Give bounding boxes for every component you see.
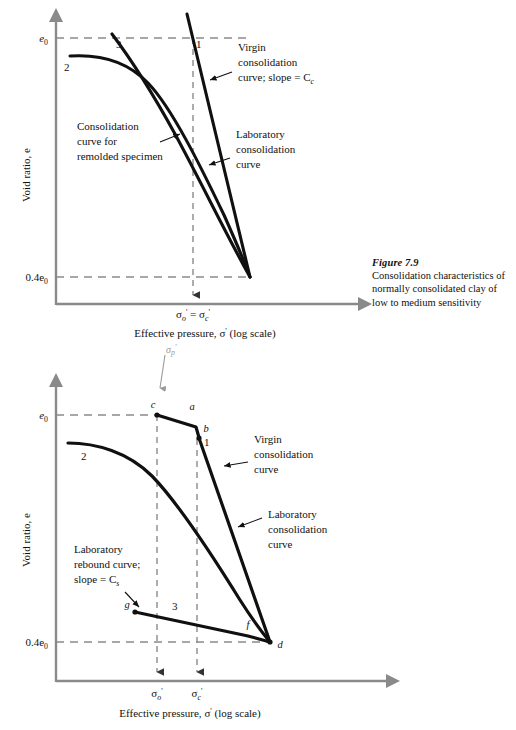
figure-page: e0 0.4e0 Void ratio, e σo' = σc' Effecti… bbox=[0, 0, 516, 730]
bottom-annotation-laboratory: Laboratory consolidation curve bbox=[238, 508, 328, 550]
svg-text:Consolidation: Consolidation bbox=[77, 120, 139, 132]
svg-text:Laboratory: Laboratory bbox=[268, 508, 317, 520]
figure-caption-title: Figure 7.9 bbox=[372, 256, 514, 269]
bottom-annotation-rebound: Laboratory rebound curve; slope = Cs bbox=[74, 543, 140, 607]
bottom-point-label-d: d bbox=[277, 639, 283, 650]
svg-text:remolded specimen: remolded specimen bbox=[77, 150, 163, 162]
bottom-annotation-virgin: Virgin consolidation curve bbox=[224, 433, 314, 475]
bottom-point-label-c: c bbox=[151, 399, 156, 410]
svg-text:rebound curve;: rebound curve; bbox=[74, 558, 140, 570]
bottom-point-label-b: b bbox=[203, 423, 208, 434]
bottom-y-axis-label: Void ratio, e bbox=[20, 513, 32, 567]
top-curve-label-1: 1 bbox=[196, 38, 202, 50]
bottom-y-tick-e0: e0 bbox=[39, 409, 48, 424]
svg-text:Laboratory: Laboratory bbox=[236, 128, 285, 140]
top-x-tick-label: σo' = σc' bbox=[176, 308, 210, 323]
marginal-arrow bbox=[160, 355, 165, 388]
svg-text:consolidation: consolidation bbox=[254, 448, 314, 460]
bottom-x-axis-label: Effective pressure, σ' (log scale) bbox=[119, 707, 261, 721]
svg-text:Virgin: Virgin bbox=[238, 41, 266, 53]
bottom-chart: e0 0.4e0 Void ratio, e σo' σc' Effective… bbox=[20, 385, 388, 720]
bottom-leader-virgin bbox=[224, 462, 248, 466]
svg-text:curve: curve bbox=[236, 158, 261, 170]
top-curve-label-3: 3 bbox=[116, 38, 122, 50]
bottom-x-tick-sigma-o: σo' bbox=[151, 687, 163, 702]
bottom-point-g bbox=[132, 609, 137, 614]
svg-text:Virgin: Virgin bbox=[254, 433, 282, 445]
top-leader-laboratory bbox=[209, 158, 230, 165]
consolidation-figure: e0 0.4e0 Void ratio, e σo' = σc' Effecti… bbox=[0, 0, 516, 730]
svg-text:curve for: curve for bbox=[77, 135, 117, 147]
bottom-curve-label-3: 3 bbox=[172, 600, 178, 612]
figure-caption-text: Consolidation characteristics of normall… bbox=[372, 269, 514, 309]
top-curve-label-2: 2 bbox=[64, 61, 70, 73]
marginal-sigma-p: σp' bbox=[166, 343, 177, 357]
bottom-leader-laboratory bbox=[238, 518, 262, 527]
bottom-curve-label-1: 1 bbox=[204, 436, 210, 448]
top-chart: e0 0.4e0 Void ratio, e σo' = σc' Effecti… bbox=[20, 14, 360, 340]
bottom-point-label-a: a bbox=[189, 401, 194, 412]
bottom-point-c bbox=[154, 412, 159, 417]
top-leader-virgin bbox=[210, 72, 232, 80]
svg-text:curve: curve bbox=[254, 463, 279, 475]
bottom-y-tick-04e0: 0.4e0 bbox=[25, 636, 48, 651]
svg-text:consolidation: consolidation bbox=[236, 143, 296, 155]
top-annotation-remolded: Consolidation curve for remolded specime… bbox=[77, 120, 180, 162]
svg-text:consolidation: consolidation bbox=[268, 523, 328, 535]
figure-caption: Figure 7.9 Consolidation characteristics… bbox=[372, 256, 514, 309]
svg-text:curve: curve bbox=[268, 538, 293, 550]
marginal-annotation: σp' bbox=[160, 343, 177, 388]
top-x-axis-label: Effective pressure, σ' (log scale) bbox=[134, 327, 276, 341]
svg-text:consolidation: consolidation bbox=[238, 56, 298, 68]
top-y-tick-e0: e0 bbox=[39, 32, 48, 47]
bottom-point-d bbox=[267, 639, 272, 644]
svg-text:slope = Cs: slope = Cs bbox=[74, 573, 119, 588]
bottom-point-label-g: g bbox=[124, 599, 129, 610]
svg-text:curve; slope = Cc: curve; slope = Cc bbox=[238, 71, 315, 86]
bottom-curve-label-2: 2 bbox=[81, 450, 87, 462]
top-y-axis-label: Void ratio, e bbox=[20, 148, 32, 202]
top-annotation-virgin: Virgin consolidation curve; slope = Cc bbox=[210, 41, 315, 86]
bottom-x-tick-sigma-c: σc' bbox=[192, 687, 203, 702]
top-y-tick-04e0: 0.4e0 bbox=[25, 271, 48, 286]
bottom-point-b bbox=[196, 435, 201, 440]
svg-text:Laboratory: Laboratory bbox=[74, 543, 123, 555]
bottom-point-label-f: f bbox=[247, 619, 252, 630]
